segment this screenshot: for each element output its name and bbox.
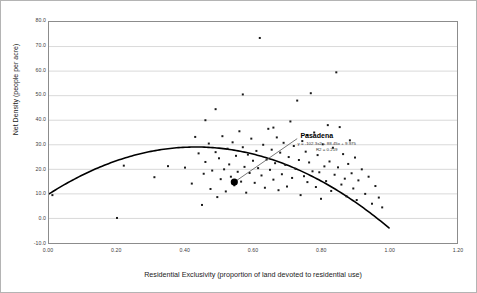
y-axis-tick-label: 40.0 xyxy=(4,118,46,123)
scatter-point xyxy=(244,166,246,168)
scatter-point xyxy=(381,206,383,208)
scatter-point xyxy=(288,156,290,158)
plot-area: Pasadena y = -102.3x2 + 88.45x + 9.975 R… xyxy=(48,21,458,244)
scatter-point xyxy=(340,184,342,186)
scatter-point xyxy=(274,162,276,164)
scatter-point xyxy=(247,154,249,156)
scatter-point xyxy=(303,175,305,177)
scatter-point xyxy=(296,100,298,102)
x-axis-tick-label: 1.00 xyxy=(370,248,410,253)
scatter-point xyxy=(201,204,203,206)
y-axis-tick-label: -10.0 xyxy=(4,241,46,246)
scatter-point xyxy=(298,159,300,161)
scatter-point xyxy=(242,93,244,95)
scatter-point xyxy=(300,194,302,196)
scatter-point xyxy=(334,174,336,176)
x-axis-tick-label: 0.00 xyxy=(28,248,68,253)
scatter-point xyxy=(257,167,259,169)
pasadena-leader-line xyxy=(234,139,297,182)
scatter-point xyxy=(232,141,234,143)
scatter-point xyxy=(215,151,217,153)
scatter-point xyxy=(278,189,280,191)
x-axis-tick-label: 0.60 xyxy=(233,248,273,253)
scatter-point xyxy=(329,160,331,162)
trendline-equation-annotation: y = -102.3x2 + 88.45x + 9.975 R2 = 0.219 xyxy=(298,141,356,154)
scatter-point xyxy=(361,168,363,170)
scatter-point xyxy=(312,170,314,172)
pasadena-highlight-point xyxy=(231,179,238,186)
scatter-point xyxy=(310,92,312,94)
scatter-point xyxy=(352,187,354,189)
scatter-point xyxy=(210,188,212,190)
scatter-point xyxy=(230,176,232,178)
x-axis-tick-labels: 0.000.200.400.600.801.001.20 xyxy=(48,248,458,258)
chart-figure: 80.070.060.050.040.030.020.010.00.0-10.0… xyxy=(0,0,477,293)
x-axis-tick-label: 0.20 xyxy=(96,248,136,253)
scatter-point xyxy=(262,144,264,146)
scatter-point xyxy=(259,37,261,39)
scatter-point xyxy=(272,179,274,181)
scatter-point xyxy=(211,170,213,172)
y-axis-tick-label: 60.0 xyxy=(4,68,46,73)
scatter-point xyxy=(227,148,229,150)
scatter-point xyxy=(357,179,359,181)
scatter-point xyxy=(327,124,329,126)
scatter-point xyxy=(204,119,206,121)
scatter-point xyxy=(194,136,196,138)
scatter-point xyxy=(264,187,266,189)
scatter-point xyxy=(123,165,125,167)
scatter-point xyxy=(261,174,263,176)
y-axis-tick-label: 0.0 xyxy=(4,217,46,222)
scatter-point xyxy=(51,194,53,196)
scatter-point xyxy=(347,163,349,165)
scatter-point xyxy=(215,108,217,110)
scatter-point xyxy=(317,154,319,156)
scatter-point xyxy=(237,171,239,173)
x-axis-tick-label: 0.40 xyxy=(165,248,205,253)
scatter-point xyxy=(378,197,380,199)
scatter-point xyxy=(344,178,346,180)
scatter-point xyxy=(291,177,293,179)
scatter-point xyxy=(116,217,118,219)
scatter-point xyxy=(368,176,370,178)
scatter-point xyxy=(306,181,308,183)
scatter-point xyxy=(272,127,274,129)
scatter-point xyxy=(184,167,186,169)
scatter-point xyxy=(284,164,286,166)
scatter-point xyxy=(228,163,230,165)
scatter-point xyxy=(269,169,271,171)
scatter-point xyxy=(346,195,348,197)
scatter-point xyxy=(252,160,254,162)
scatter-point xyxy=(315,186,317,188)
scatter-point xyxy=(364,193,366,195)
scatter-point xyxy=(271,149,273,151)
scatter-point xyxy=(198,152,200,154)
scatter-point xyxy=(320,198,322,200)
y-axis-tick-label: 80.0 xyxy=(4,18,46,23)
scatter-point xyxy=(281,173,283,175)
scatter-point xyxy=(242,146,244,148)
scatter-point xyxy=(218,157,220,159)
scatter-point xyxy=(323,165,325,167)
y-axis-tick-label: 50.0 xyxy=(4,93,46,98)
scatter-point xyxy=(374,185,376,187)
x-axis-title: Residential Exclusivity (proportion of l… xyxy=(48,270,458,279)
scatter-point xyxy=(339,126,341,128)
scatter-point xyxy=(167,165,169,167)
scatter-point xyxy=(240,181,242,183)
scatter-point xyxy=(356,199,358,201)
y-axis-title: Net Density (people per acre) xyxy=(12,10,19,170)
scatter-point xyxy=(220,178,222,180)
plot-svg xyxy=(49,22,457,243)
scatter-point xyxy=(208,143,210,145)
x-axis-tick-label: 0.80 xyxy=(301,248,341,253)
scatter-point xyxy=(354,157,356,159)
scatter-point xyxy=(254,182,256,184)
y-axis-tick-label: 70.0 xyxy=(4,43,46,48)
y-axis-tick-labels: 80.070.060.050.040.030.020.010.00.0-10.0 xyxy=(1,21,46,244)
scatter-point xyxy=(245,192,247,194)
scatter-point xyxy=(335,71,337,73)
scatter-point xyxy=(191,183,193,185)
scatter-point xyxy=(204,161,206,163)
scatter-point xyxy=(223,168,225,170)
